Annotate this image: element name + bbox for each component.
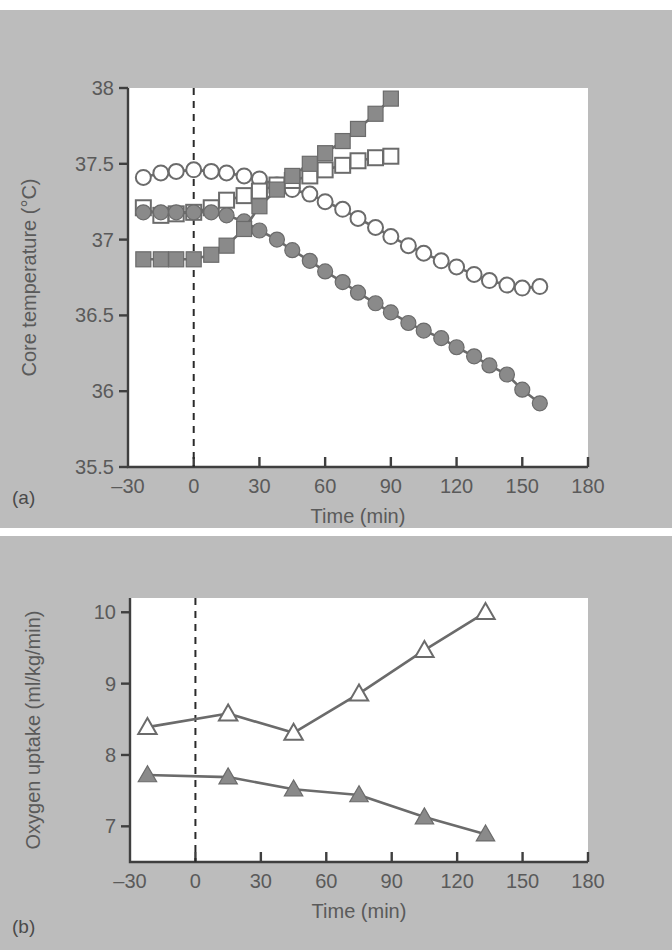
marker-open-circle — [169, 164, 184, 179]
marker-filled-square — [269, 182, 284, 197]
marker-filled-circle — [136, 205, 151, 220]
marker-filled-circle — [302, 253, 317, 268]
marker-open-circle — [237, 168, 252, 183]
y-tick-label: 38 — [92, 77, 114, 99]
marker-open-square — [252, 184, 267, 199]
marker-filled-circle — [318, 264, 333, 279]
x-tick-label: 30 — [248, 475, 270, 497]
marker-open-square — [237, 188, 252, 203]
marker-open-circle — [532, 279, 547, 294]
marker-open-square — [351, 153, 366, 168]
marker-open-circle — [136, 170, 151, 185]
x-tick-label: –30 — [113, 870, 146, 892]
marker-filled-circle — [515, 382, 530, 397]
y-tick-label: 8 — [105, 744, 116, 766]
marker-open-circle — [499, 278, 514, 293]
marker-open-circle — [434, 253, 449, 268]
marker-open-circle — [153, 165, 168, 180]
marker-filled-square — [169, 252, 184, 267]
marker-filled-circle — [383, 305, 398, 320]
marker-open-circle — [416, 246, 431, 261]
x-tick-label: 60 — [315, 870, 337, 892]
marker-filled-circle — [482, 358, 497, 373]
marker-filled-square — [204, 247, 219, 262]
marker-filled-circle — [204, 205, 219, 220]
x-tick-label: 120 — [440, 475, 473, 497]
marker-filled-circle — [401, 315, 416, 330]
marker-filled-circle — [368, 296, 383, 311]
marker-open-circle — [383, 229, 398, 244]
marker-filled-square — [252, 199, 267, 214]
marker-filled-circle — [153, 205, 168, 220]
marker-filled-circle — [335, 275, 350, 290]
marker-filled-square — [368, 106, 383, 121]
y-tick-label: 9 — [105, 673, 116, 695]
x-tick-label: 150 — [506, 870, 539, 892]
y-axis-title: Core temperature (°C) — [18, 178, 40, 376]
marker-open-circle — [449, 259, 464, 274]
y-axis-title: Oxygen uptake (ml/kg/min) — [22, 611, 44, 850]
x-tick-label: 180 — [571, 475, 604, 497]
marker-filled-square — [318, 146, 333, 161]
marker-filled-square — [302, 156, 317, 171]
chart-b-oxygen-uptake: 78910–300306090120150180Time (min)Oxygen… — [0, 536, 672, 950]
x-tick-label: 60 — [314, 475, 336, 497]
x-tick-label: 90 — [380, 475, 402, 497]
marker-filled-circle — [467, 349, 482, 364]
x-tick-label: 120 — [440, 870, 473, 892]
marker-filled-square — [351, 121, 366, 136]
figure-container: 35.53636.53737.538–300306090120150180Tim… — [0, 0, 672, 950]
marker-open-circle — [368, 220, 383, 235]
marker-open-circle — [186, 162, 201, 177]
y-tick-label: 35.5 — [75, 456, 114, 478]
x-tick-label: 180 — [571, 870, 604, 892]
y-axis-ticks: 78910 — [94, 601, 130, 837]
y-axis-ticks: 35.53636.53737.538 — [75, 77, 128, 478]
marker-filled-circle — [449, 340, 464, 355]
marker-filled-square — [186, 252, 201, 267]
marker-filled-circle — [285, 243, 300, 258]
marker-open-circle — [482, 273, 497, 288]
marker-filled-square — [285, 168, 300, 183]
marker-filled-circle — [416, 323, 431, 338]
marker-open-circle — [219, 165, 234, 180]
plot-area-background — [128, 88, 588, 467]
marker-filled-square — [237, 221, 252, 236]
y-tick-label: 7 — [105, 815, 116, 837]
marker-filled-circle — [169, 205, 184, 220]
marker-filled-square — [219, 238, 234, 253]
x-tick-label: 0 — [190, 870, 201, 892]
marker-open-circle — [335, 202, 350, 217]
marker-filled-circle — [219, 208, 234, 223]
x-axis-title: Time (min) — [312, 900, 407, 922]
marker-filled-square — [136, 252, 151, 267]
marker-open-circle — [467, 267, 482, 282]
y-tick-label: 36.5 — [75, 304, 114, 326]
marker-open-circle — [515, 281, 530, 296]
x-tick-label: 150 — [506, 475, 539, 497]
marker-filled-circle — [434, 331, 449, 346]
y-tick-label: 37 — [92, 229, 114, 251]
x-axis-title: Time (min) — [311, 505, 406, 527]
marker-filled-circle — [499, 367, 514, 382]
marker-open-circle — [401, 238, 416, 253]
marker-filled-square — [153, 252, 168, 267]
panel-b-label: (b) — [12, 916, 35, 938]
marker-filled-circle — [252, 223, 267, 238]
marker-open-square — [318, 162, 333, 177]
plot-area-background — [130, 598, 588, 862]
marker-open-square — [383, 149, 398, 164]
marker-open-circle — [351, 211, 366, 226]
marker-open-square — [335, 158, 350, 173]
y-tick-label: 37.5 — [75, 153, 114, 175]
marker-open-square — [368, 150, 383, 165]
marker-filled-circle — [269, 232, 284, 247]
marker-filled-square — [335, 134, 350, 149]
marker-open-square — [219, 193, 234, 208]
x-tick-label: 90 — [381, 870, 403, 892]
y-tick-label: 10 — [94, 601, 116, 623]
marker-open-circle — [302, 187, 317, 202]
x-tick-label: –30 — [111, 475, 144, 497]
x-tick-label: 0 — [188, 475, 199, 497]
marker-open-circle — [318, 194, 333, 209]
